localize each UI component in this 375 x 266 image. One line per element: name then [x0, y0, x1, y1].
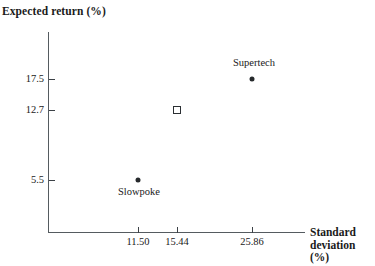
x-axis-tick-15-44: [177, 227, 178, 233]
x-axis-title-line-2: deviation (%): [310, 239, 375, 264]
data-point-label-supertech: Supertech: [233, 57, 275, 68]
y-axis-ticklabel-5-5: 5.5: [31, 174, 44, 185]
y-axis-ticklabel-12-7: 12.7: [26, 104, 44, 115]
y-axis-ticklabel-17-5: 17.5: [26, 73, 44, 84]
data-point-slowpoke: [136, 178, 141, 183]
x-axis-ticklabel-25-86: 25.86: [240, 236, 264, 247]
y-axis-tick-12-7: [49, 110, 55, 111]
y-axis-title: Expected return (%): [2, 5, 106, 17]
x-axis-title-line-1: Standard: [310, 226, 356, 238]
x-axis-ticklabel-11-50: 11.50: [126, 236, 149, 247]
x-axis-tick-25-86: [252, 227, 253, 233]
data-point-label-slowpoke: Slowpoke: [118, 186, 160, 197]
x-axis-title: Standard deviation (%): [310, 226, 375, 264]
scatter-chart: Expected return (%) 17.5 12.7 5.5 11.50 …: [0, 0, 375, 266]
y-axis-line: [48, 32, 49, 233]
data-point-supertech: [250, 77, 255, 82]
data-point-portfolio: [173, 106, 181, 114]
y-axis-tick-17-5: [49, 79, 55, 80]
x-axis-ticklabel-15-44: 15.44: [165, 236, 189, 247]
x-axis-tick-11-50: [138, 227, 139, 233]
y-axis-tick-5-5: [49, 180, 55, 181]
